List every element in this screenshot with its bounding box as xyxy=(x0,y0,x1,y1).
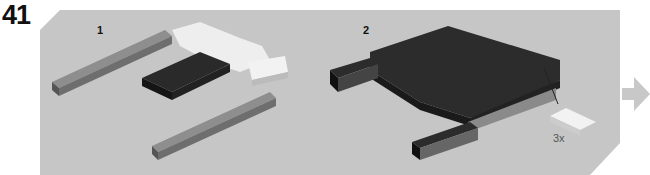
black-plate xyxy=(142,52,230,100)
substep-2-label: 2 xyxy=(363,24,369,36)
quantity-label: 3x xyxy=(553,132,565,144)
dark-tile-bottom xyxy=(412,122,478,160)
substep-1-label: 1 xyxy=(97,24,103,36)
dark-tile-left xyxy=(330,58,378,92)
arrow-right-icon xyxy=(622,77,650,111)
dark-plate-assembly xyxy=(370,26,560,132)
gray-hinge-plate-bottom xyxy=(152,92,276,160)
